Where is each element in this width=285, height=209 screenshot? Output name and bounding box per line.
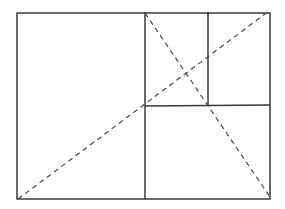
golden-rectangle-diagram (0, 0, 285, 209)
